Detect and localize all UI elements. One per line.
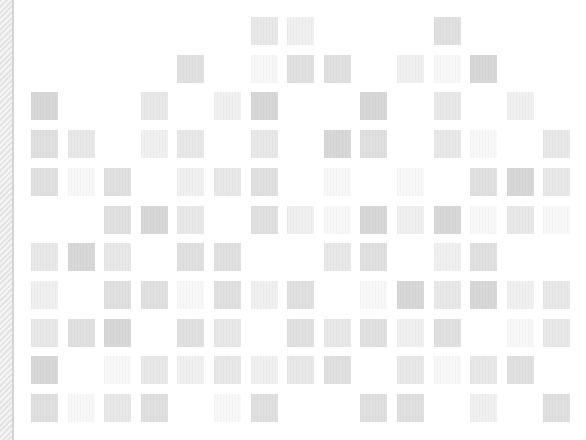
grid-tile — [397, 206, 424, 234]
grid-tile — [177, 206, 204, 234]
grid-tile — [434, 130, 461, 158]
grid-tile — [397, 356, 424, 384]
grid-tile — [68, 168, 95, 196]
grid-tile — [251, 168, 278, 196]
grid-tile — [31, 130, 58, 158]
grid-tile — [434, 55, 461, 83]
grid-tile — [104, 168, 131, 196]
grid-tile — [434, 356, 461, 384]
grid-tile — [360, 130, 387, 158]
grid-tile — [31, 92, 58, 120]
grid-tile — [141, 206, 168, 234]
grid-tile — [360, 281, 387, 309]
grid-tile — [397, 281, 424, 309]
grid-tile — [31, 319, 58, 347]
grid-tile — [434, 281, 461, 309]
grid-tile — [324, 206, 351, 234]
grid-tile — [251, 130, 278, 158]
grid-tile — [287, 356, 314, 384]
grid-tile — [434, 17, 461, 45]
grid-tile — [214, 281, 241, 309]
grid-tile — [104, 281, 131, 309]
grid-tile — [214, 243, 241, 271]
grid-tile — [324, 168, 351, 196]
grid-tile — [360, 319, 387, 347]
grid-tile — [434, 319, 461, 347]
grid-tile — [177, 55, 204, 83]
grid-tile — [543, 394, 570, 422]
grid-tile — [287, 17, 314, 45]
grid-tile — [177, 130, 204, 158]
grid-tile — [434, 243, 461, 271]
grid-tile — [251, 281, 278, 309]
grid-tile — [324, 130, 351, 158]
grid-tile — [104, 356, 131, 384]
grid-tile — [324, 243, 351, 271]
grid-tile — [104, 394, 131, 422]
grid-tile — [31, 356, 58, 384]
grid-tile — [470, 394, 497, 422]
grid-tile — [470, 206, 497, 234]
grid-tile — [470, 130, 497, 158]
grid-tile — [470, 356, 497, 384]
grid-tile — [543, 319, 570, 347]
grid-tile — [543, 206, 570, 234]
grid-tile — [360, 394, 387, 422]
grid-tile — [141, 130, 168, 158]
grid-tile — [68, 319, 95, 347]
grid-tile — [104, 319, 131, 347]
grid-tile — [31, 281, 58, 309]
grid-tile — [177, 243, 204, 271]
grid-tile — [177, 319, 204, 347]
grid-tile — [507, 281, 534, 309]
grid-tile — [141, 394, 168, 422]
grid-tile — [31, 394, 58, 422]
grid-tile — [214, 394, 241, 422]
grid-tile — [177, 168, 204, 196]
grid-tile — [287, 319, 314, 347]
grid-tile — [214, 168, 241, 196]
grid-tile — [68, 130, 95, 158]
grid-tile — [470, 243, 497, 271]
grid-tile — [68, 243, 95, 271]
grid-tile — [251, 55, 278, 83]
grid-tile — [434, 92, 461, 120]
grid-tile — [31, 243, 58, 271]
grid-tile — [507, 92, 534, 120]
grid-tile — [507, 319, 534, 347]
grid-tile — [141, 356, 168, 384]
grid-tile — [214, 92, 241, 120]
grid-tile — [360, 243, 387, 271]
grid-tile — [397, 319, 424, 347]
grid-tile — [397, 394, 424, 422]
grid-tile — [251, 394, 278, 422]
grid-tile — [434, 206, 461, 234]
grid-tile — [470, 168, 497, 196]
grid-tile — [360, 206, 387, 234]
grid-tile — [507, 168, 534, 196]
grid-tile — [251, 206, 278, 234]
grid-tile — [214, 356, 241, 384]
grid-tile — [251, 17, 278, 45]
grid-tile — [543, 281, 570, 309]
grid-tile — [397, 55, 424, 83]
grid-tile — [214, 319, 241, 347]
grid-tile — [287, 206, 314, 234]
grid-tile — [397, 168, 424, 196]
tile-grid — [0, 0, 586, 440]
grid-tile — [470, 281, 497, 309]
grid-tile — [543, 168, 570, 196]
grid-tile — [251, 92, 278, 120]
grid-tile — [251, 356, 278, 384]
grid-tile — [31, 168, 58, 196]
grid-tile — [543, 130, 570, 158]
grid-tile — [177, 356, 204, 384]
grid-tile — [507, 356, 534, 384]
grid-tile — [324, 319, 351, 347]
grid-tile — [324, 55, 351, 83]
grid-tile — [141, 281, 168, 309]
grid-tile — [287, 55, 314, 83]
grid-tile — [287, 281, 314, 309]
grid-tile — [141, 92, 168, 120]
grid-tile — [470, 55, 497, 83]
